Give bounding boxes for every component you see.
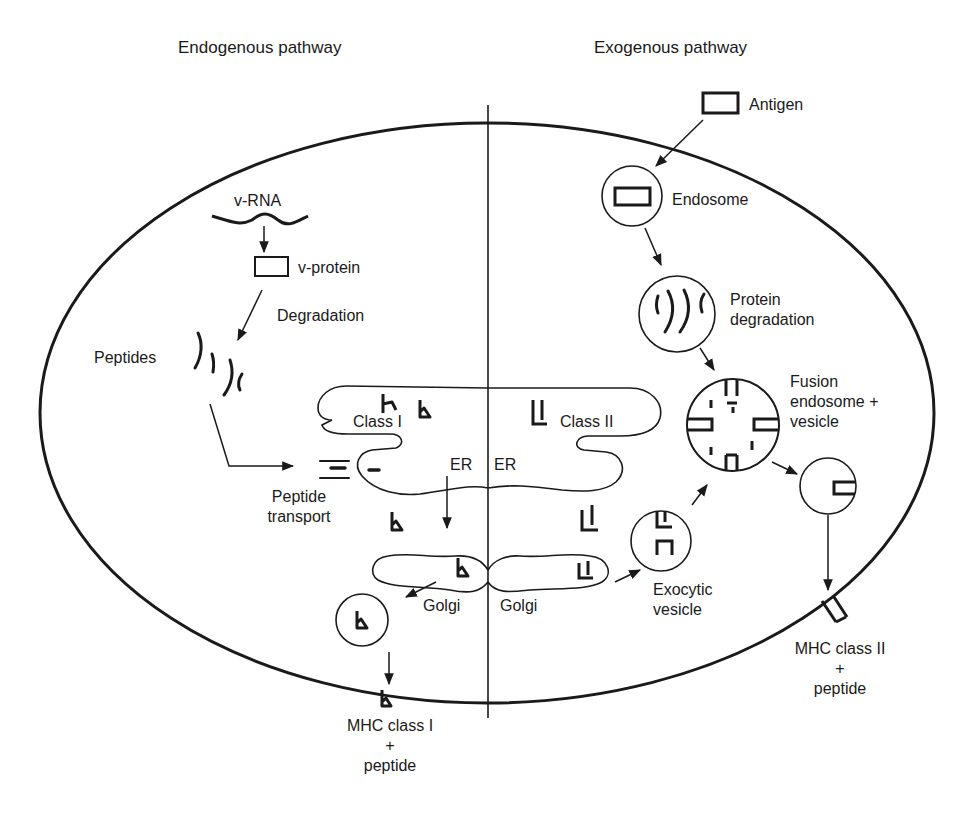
mhc-class-ii-vesicle-glyph-icon (834, 482, 855, 494)
fusion-label: Fusion endosome + vesicle (790, 372, 879, 432)
golgi-right-label: Golgi (500, 596, 537, 616)
antigen-label: Antigen (749, 95, 803, 115)
fusion-line3: vesicle (790, 412, 879, 432)
exocytic-line2: vesicle (653, 600, 713, 620)
golgi-left-compartment (373, 555, 488, 592)
fusion-line2: endosome + (790, 392, 879, 412)
er-right-compartment (488, 388, 661, 491)
exocytic-vesicle-label: Exocytic vesicle (653, 580, 713, 620)
peptides-label: Peptides (94, 348, 156, 368)
mhc-class-i-peptide-label: MHC class I + peptide (320, 716, 460, 776)
mhc-class-i-glyph-icon (357, 394, 468, 706)
degradation-label: Degradation (277, 306, 364, 326)
mhc-class-ii-line2: + (770, 659, 910, 679)
golgi-left-label: Golgi (423, 596, 460, 616)
mhc-class-ii-line1: MHC class II (770, 639, 910, 659)
mhc-class-i-line2: + (320, 736, 460, 756)
protein-degradation-line1: Protein (730, 290, 815, 310)
peptide-transport-line2: transport (256, 507, 342, 527)
er-right-label: ER (494, 455, 516, 475)
mhc-class-ii-line3: peptide (770, 679, 910, 699)
class-i-label: Class I (353, 412, 402, 432)
fusion-vesicle (687, 379, 779, 471)
protein-degradation-vesicle (639, 276, 715, 352)
peptide-transport-label: Peptide transport (256, 487, 342, 527)
mhc-class-ii-fusion-glyphs-icon (688, 380, 778, 470)
endogenous-pathway-heading: Endogenous pathway (178, 38, 342, 58)
mhc-class-i-line3: peptide (320, 756, 460, 776)
degraded-peptides-icon (657, 290, 705, 332)
mhc-class-i-line1: MHC class I (320, 716, 460, 736)
peptide-fragments-icon (195, 333, 242, 395)
protein-degradation-line2: degradation (730, 310, 815, 330)
v-rna-strand-icon (212, 214, 308, 224)
mhc-class-ii-exocytic-glyphs-icon (657, 512, 672, 555)
fusion-line1: Fusion (790, 372, 879, 392)
exocytic-line1: Exocytic (653, 580, 713, 600)
mhc-class-ii-transport-vesicle (800, 458, 856, 514)
v-protein-label: v-protein (298, 258, 360, 278)
v-rna-label: v-RNA (234, 191, 281, 211)
peptide-transporter-icon (320, 461, 379, 478)
mhc-class-ii-peptide-label: MHC class II + peptide (770, 639, 910, 699)
peptide-transport-line1: Peptide (256, 487, 342, 507)
endosome-label: Endosome (672, 190, 749, 210)
antigen-box-icon (703, 93, 738, 113)
endosome-antigen-icon (615, 188, 650, 205)
class-ii-label: Class II (560, 412, 613, 432)
protein-degradation-label: Protein degradation (730, 290, 815, 330)
v-protein-box-icon (255, 257, 288, 276)
golgi-right-compartment (488, 555, 608, 592)
exogenous-pathway-heading: Exogenous pathway (594, 38, 747, 58)
er-left-label: ER (450, 455, 472, 475)
endosome-vesicle (602, 166, 662, 226)
